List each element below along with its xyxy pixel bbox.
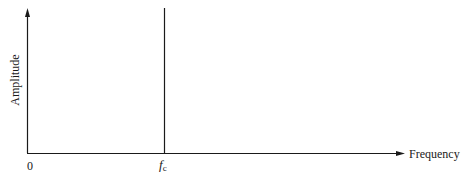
x-axis-label: Frequency [409,147,460,161]
diagram-canvas: Amplitude Frequency 0 fc [0,0,468,177]
fc-label: fc [159,157,167,173]
y-axis-label: Amplitude [8,54,22,105]
y-axis-arrowhead-icon [25,8,30,17]
x-axis-arrowhead-icon [396,151,405,156]
spectrum-diagram: Amplitude Frequency 0 fc [0,0,468,177]
origin-label: 0 [27,159,33,173]
fc-label-sub: c [163,163,167,173]
